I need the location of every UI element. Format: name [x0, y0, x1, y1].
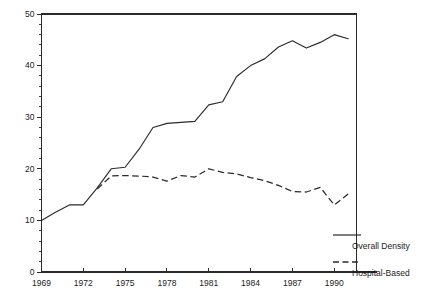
x-tick-label: 1981 — [199, 278, 218, 288]
x-tick-label: 1975 — [116, 278, 135, 288]
x-tick-label: 1987 — [283, 278, 302, 288]
series-line-overall-density — [42, 35, 349, 221]
y-tick-label: 0 — [30, 267, 35, 277]
y-tick-label: 40 — [25, 60, 35, 70]
y-tick-label: 20 — [25, 164, 35, 174]
chart-figure: 01020304050 1969197219751978198119841987… — [0, 0, 422, 306]
axis-frame — [42, 14, 377, 272]
line-chart: 01020304050 1969197219751978198119841987… — [0, 0, 422, 306]
y-tick-label: 30 — [25, 112, 35, 122]
x-tick-label: 1978 — [157, 278, 176, 288]
x-tick-label: 1984 — [241, 278, 260, 288]
series-line-hospital-based — [97, 169, 348, 205]
y-tick-label: 50 — [25, 9, 35, 19]
legend-label: Overall Density — [352, 241, 410, 251]
x-axis-major-ticks — [42, 268, 335, 273]
x-axis-tick-labels: 19691972197519781981198419871990 — [32, 278, 344, 288]
y-axis-major-ticks — [37, 14, 42, 272]
x-tick-label: 1969 — [32, 278, 51, 288]
x-tick-label: 1990 — [325, 278, 344, 288]
x-tick-label: 1972 — [74, 278, 93, 288]
legend-label: Hospital-Based — [352, 268, 410, 278]
y-tick-label: 10 — [25, 215, 35, 225]
y-axis-tick-labels: 01020304050 — [25, 9, 35, 277]
